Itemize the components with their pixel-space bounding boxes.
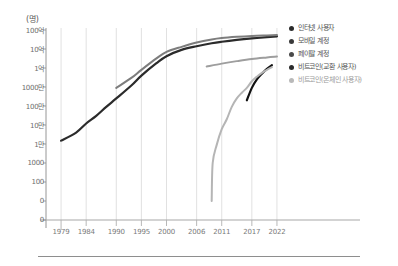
y-tick-label-layer: 100억10억1억1000만100만10만1만100010000 <box>0 0 44 266</box>
y-tick-label: 1000만 <box>0 82 44 92</box>
series-line-0 <box>61 36 277 140</box>
y-tick-label: 10만 <box>0 120 44 130</box>
legend-marker-icon <box>289 52 294 57</box>
x-tick-label: 1984 <box>78 228 95 236</box>
bottom-divider <box>38 256 360 257</box>
chart-legend: 인터넷 사용자모바일 계정페이팔 계정비트코인(교환 사용자)비트코인(온체인 … <box>289 22 397 87</box>
legend-item[interactable]: 모바일 계정 <box>289 35 397 48</box>
legend-item-label: 페이팔 계정 <box>298 51 328 58</box>
legend-marker-icon <box>289 65 294 70</box>
series-line-4 <box>212 67 272 201</box>
legend-marker-icon <box>289 26 294 31</box>
legend-item[interactable]: 비트코인(교환 사용자) <box>289 61 397 74</box>
chart-figure: (명) 100억10억1억1000만100만10만1만100010000 197… <box>0 0 398 266</box>
y-tick-label: 10억 <box>0 44 44 54</box>
series-line-2 <box>207 57 277 67</box>
y-tick-label: 1억 <box>0 63 44 73</box>
x-tick-label: 1995 <box>133 228 150 236</box>
legend-item-label: 모바일 계정 <box>298 38 328 45</box>
legend-item-label: 비트코인(온체인 사용자) <box>298 77 362 84</box>
x-tick-label: 2006 <box>188 228 205 236</box>
x-tick-label: 2000 <box>158 228 175 236</box>
y-tick-label: 0 <box>0 197 44 205</box>
y-tick-label: 1만 <box>0 139 44 149</box>
y-tick-label: 100 <box>0 178 44 186</box>
x-tick-label: 2022 <box>268 228 285 236</box>
x-tick-label: 2017 <box>243 228 260 236</box>
legend-item[interactable]: 페이팔 계정 <box>289 48 397 61</box>
legend-item-label: 인터넷 사용자 <box>298 25 334 32</box>
y-tick-label: 1000 <box>0 159 44 167</box>
x-tick-label: 1979 <box>53 228 70 236</box>
series-lines <box>61 35 277 201</box>
legend-item-label: 비트코인(교환 사용자) <box>298 64 356 71</box>
y-tick-label: 100만 <box>0 101 44 111</box>
legend-marker-icon <box>289 78 294 83</box>
vertical-gridlines <box>61 28 277 220</box>
legend-marker-icon <box>289 39 294 44</box>
y-tick-label: 100억 <box>0 25 44 35</box>
legend-item[interactable]: 인터넷 사용자 <box>289 22 397 35</box>
legend-item[interactable]: 비트코인(온체인 사용자) <box>289 74 397 87</box>
x-tick-label: 2011 <box>213 228 230 236</box>
y-tick-label: 0 <box>0 216 44 224</box>
x-tick-label: 1990 <box>108 228 125 236</box>
